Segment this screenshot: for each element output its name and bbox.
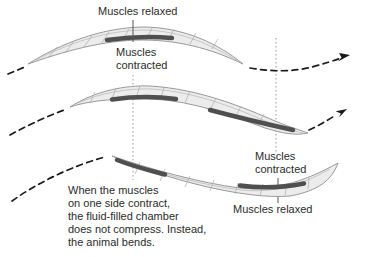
caption-line: does not compress. Instead, <box>68 223 206 236</box>
worm-locomotion-diagram: Muscles relaxed Muscles contracted Muscl… <box>0 0 365 257</box>
motion-dash-middle-right <box>309 115 336 130</box>
caption-line: on one side contract, <box>68 197 206 210</box>
motion-dash-lead-middle <box>10 109 67 135</box>
motion-dash-lead-top <box>8 66 27 74</box>
worm-middle <box>70 86 308 134</box>
caption-line: When the muscles <box>68 184 206 197</box>
arrowhead-icon-top <box>338 53 350 62</box>
caption-text: When the muscles on one side contract, t… <box>68 184 206 249</box>
label-muscles-relaxed-bottom: Muscles relaxed <box>233 203 312 216</box>
label-muscles-contracted-bottom: Muscles contracted <box>255 150 306 176</box>
worm-middle-contracted-band-left <box>112 97 176 99</box>
caption-line: the fluid-filled chamber <box>68 210 206 223</box>
worm-bottom-contracted-band-right <box>240 184 304 188</box>
motion-dash-top-right <box>250 58 341 71</box>
worm-bottom-contracted-band-left <box>117 160 165 175</box>
caption-line: the animal bends. <box>68 236 206 249</box>
label-muscles-relaxed-top: Muscles relaxed <box>98 5 177 18</box>
arrowhead-icon-middle <box>336 109 347 118</box>
label-muscles-contracted-top: Muscles contracted <box>116 46 167 72</box>
